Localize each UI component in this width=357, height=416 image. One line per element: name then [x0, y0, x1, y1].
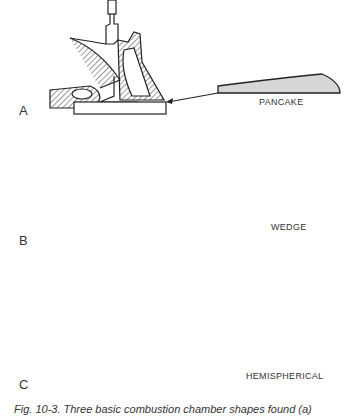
figure-caption: Fig. 10-3. Three basic combustion chambe… [14, 403, 312, 415]
panel-a-head-drawing [50, 0, 166, 114]
panel-a-pancake-shape [166, 74, 340, 104]
pancake-label: PANCAKE [259, 97, 303, 107]
wedge-label: WEDGE [271, 222, 307, 232]
panel-b-letter: B [19, 233, 28, 248]
hemispherical-label: HEMISPHERICAL [246, 371, 323, 381]
combustion-chamber-diagram [0, 0, 357, 416]
panel-c-letter: C [19, 377, 28, 392]
panel-a-letter: A [19, 103, 28, 118]
